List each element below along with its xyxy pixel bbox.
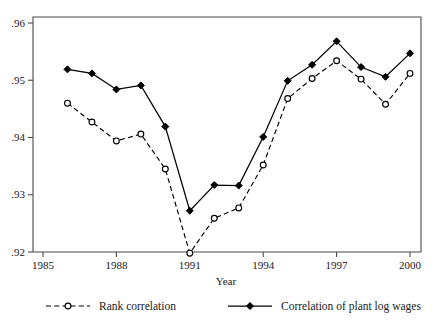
- y-axis-ticks: [28, 23, 33, 252]
- legend-label: Correlation of plant log wages: [281, 300, 421, 313]
- data-point-marker: [187, 250, 193, 256]
- legend-item-2[interactable]: Correlation of plant log wages: [228, 300, 421, 313]
- x-tick-label: 1991: [179, 259, 201, 271]
- data-point-marker: [65, 100, 71, 106]
- y-tick-label: .92: [11, 246, 25, 258]
- x-axis-tick-labels: 198519881991199419972000: [32, 259, 422, 271]
- x-axis-ticks: [43, 252, 410, 257]
- x-axis-title: Year: [216, 275, 237, 287]
- data-point-marker: [334, 58, 340, 64]
- data-point-marker: [383, 101, 389, 107]
- data-point-marker: [309, 76, 315, 82]
- x-tick-label: 2000: [399, 259, 422, 271]
- x-tick-label: 1988: [105, 259, 128, 271]
- data-point-marker: [235, 182, 242, 189]
- legend-label: Rank correlation: [99, 300, 176, 312]
- chart-legend: Rank correlationCorrelation of plant log…: [46, 300, 421, 313]
- data-point-marker: [162, 123, 169, 130]
- data-point-marker: [89, 119, 95, 125]
- data-point-marker: [407, 70, 413, 76]
- line-chart: 198519881991199419972000 .92.93.94.95.96…: [0, 0, 434, 325]
- plot-box: [33, 17, 421, 252]
- data-point-marker: [88, 70, 95, 77]
- data-point-marker: [137, 82, 144, 89]
- data-point-marker: [114, 138, 120, 144]
- series-layer: [64, 38, 414, 256]
- data-point-marker: [260, 133, 267, 140]
- data-point-marker: [358, 76, 364, 82]
- y-tick-label: .95: [11, 74, 25, 86]
- x-tick-label: 1985: [32, 259, 55, 271]
- data-point-marker: [64, 66, 71, 73]
- legend-marker: [65, 303, 71, 309]
- y-tick-label: .96: [11, 17, 25, 29]
- legend-item-1[interactable]: Rank correlation: [46, 300, 176, 312]
- data-point-marker: [113, 86, 120, 93]
- data-point-marker: [211, 215, 217, 221]
- legend-marker: [247, 303, 254, 310]
- plot-frame: [33, 17, 421, 252]
- x-tick-label: 1994: [252, 259, 275, 271]
- data-point-marker: [162, 166, 168, 172]
- data-point-marker: [260, 162, 266, 168]
- data-point-marker: [236, 205, 242, 211]
- y-tick-label: .94: [11, 131, 25, 143]
- chart-figure: 198519881991199419972000 .92.93.94.95.96…: [0, 0, 434, 325]
- series-2: [64, 38, 414, 214]
- y-tick-label: .93: [11, 188, 25, 200]
- data-point-marker: [138, 131, 144, 137]
- y-axis-tick-labels: .92.93.94.95.96: [11, 17, 25, 258]
- data-point-marker: [284, 77, 291, 84]
- data-point-marker: [285, 96, 291, 102]
- x-tick-label: 1997: [326, 259, 349, 271]
